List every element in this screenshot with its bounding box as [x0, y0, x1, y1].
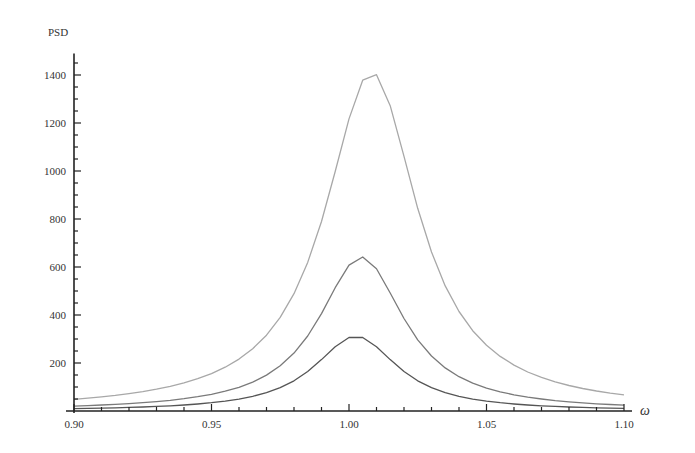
y-tick-label: 1200	[44, 117, 67, 129]
x-tick-label: 1.10	[614, 418, 634, 430]
x-tick-label: 1.05	[477, 418, 497, 430]
y-tick-label: 600	[50, 261, 67, 273]
y-axis-title: PSD	[48, 26, 68, 38]
x-tick-label: 0.95	[202, 418, 222, 430]
y-tick-label: 1400	[44, 69, 67, 81]
x-axis-ticks: 0.900.951.001.051.10	[64, 404, 634, 430]
x-axis: 0.900.951.001.051.10	[64, 404, 634, 430]
series-line-high	[74, 75, 624, 400]
y-axis: 200400600800100012001400	[44, 53, 81, 413]
y-tick-label: 200	[50, 357, 67, 369]
y-tick-label: 1000	[44, 165, 67, 177]
y-tick-label: 800	[50, 213, 67, 225]
y-tick-label: 400	[50, 309, 67, 321]
x-tick-label: 1.00	[339, 418, 359, 430]
series-lines	[74, 75, 624, 409]
x-tick-label: 0.90	[64, 418, 84, 430]
psd-chart: 0.900.951.001.051.10 2004006008001000120…	[0, 0, 695, 453]
series-line-low	[74, 338, 624, 409]
x-axis-title: ω	[640, 403, 650, 418]
series-line-medium	[74, 257, 624, 406]
y-axis-ticks: 200400600800100012001400	[44, 63, 81, 399]
